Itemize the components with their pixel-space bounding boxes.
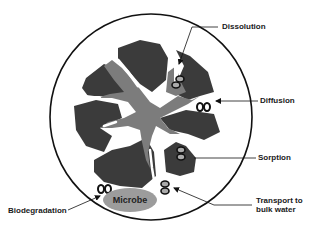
molecule-lobe-icon <box>161 188 169 194</box>
molecule-lobe-icon <box>172 82 180 88</box>
transport-label-line2: bulk water <box>256 205 296 214</box>
molecule-lobe-icon <box>176 76 184 82</box>
dissolution-label: Dissolution <box>222 22 266 31</box>
molecule-lobe-icon <box>98 185 104 193</box>
molecule-lobe-icon <box>105 185 111 193</box>
transport-arrow <box>174 188 252 205</box>
soil-particle-diagram: Microbe Dissolution Diffusion Sorption T… <box>0 0 314 231</box>
molecule-biodegradation <box>98 185 111 193</box>
biodegradation-label: Biodegradation <box>8 206 67 215</box>
transport-label-line1: Transport to <box>256 196 303 205</box>
sorption-label: Sorption <box>258 153 291 162</box>
molecule-lobe-icon <box>204 103 210 111</box>
diffusion-label: Diffusion <box>260 96 295 105</box>
molecule-lobe-icon <box>177 154 185 160</box>
molecule-lobe-icon <box>197 103 203 111</box>
molecule-transport <box>161 181 169 194</box>
molecule-lobe-icon <box>161 181 169 187</box>
microbe-label: Microbe <box>113 195 148 205</box>
molecule-lobe-icon <box>177 147 185 153</box>
